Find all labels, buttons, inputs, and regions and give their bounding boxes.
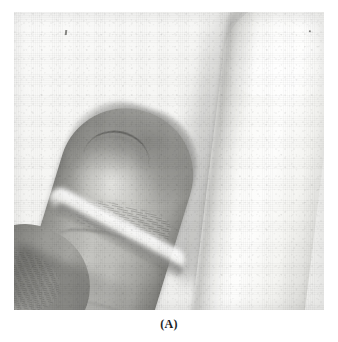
figure-page: (A): [0, 0, 338, 342]
photograph-plate: [14, 12, 324, 310]
figure-caption: (A): [0, 316, 338, 332]
